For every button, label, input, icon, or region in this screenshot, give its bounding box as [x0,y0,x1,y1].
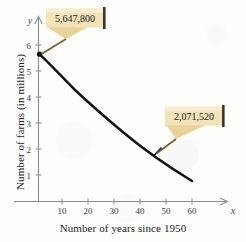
figure-container: 10 20 30 40 50 60 1 2 3 4 5 6 y x [0,0,246,242]
x-tick-label: 40 [136,206,146,216]
callout-right-edge [103,7,106,29]
callout-leader-line [157,139,177,154]
callout-right-edge [222,105,225,127]
x-tick-label: 30 [110,206,120,216]
y-tick-labels: 1 2 3 4 5 6 [27,41,32,181]
x-tick-label: 10 [58,206,68,216]
y-axis-symbol: y [27,15,33,26]
data-point-marker-start [37,52,42,57]
callout-2071520: 2,071,520 [157,105,225,154]
callout-box-highlight [165,107,223,111]
y-axis-title: Number of farms (in millions) [14,54,26,190]
y-tick-label: 4 [27,93,32,103]
callout-leader-fin [47,27,88,39]
y-tick-label: 2 [27,145,32,155]
callout-5647800: 5,647,800 [42,7,106,54]
y-tick-label: 5 [27,67,32,77]
x-tick-label: 60 [188,206,198,216]
x-tick-label: 20 [84,206,94,216]
x-axis-symbol: x [230,205,236,216]
callout-leader-fin [166,125,206,139]
callout-label: 5,647,800 [55,13,95,24]
x-tick-label: 50 [162,206,172,216]
callout-box-highlight [46,9,104,13]
callout-leader-line [42,39,67,54]
y-tick-label: 6 [27,41,32,51]
callout-label: 2,071,520 [174,111,214,122]
chart-plot: 10 20 30 40 50 60 1 2 3 4 5 6 y x [0,0,246,242]
x-tick-labels: 10 20 30 40 50 60 [58,206,198,216]
y-tick-label: 3 [27,119,32,129]
x-axis-title: Number of years since 1950 [0,222,246,234]
y-tick-label: 1 [27,171,32,181]
